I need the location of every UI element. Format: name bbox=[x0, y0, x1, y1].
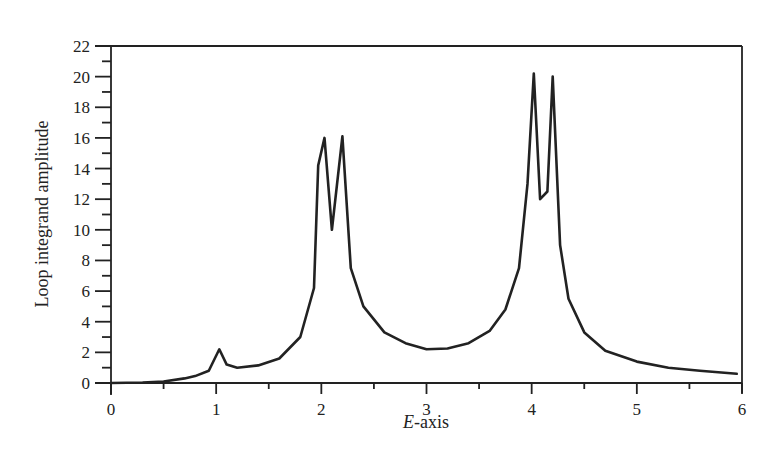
y-axis-tick-labels: 0246810121416182022 bbox=[73, 37, 91, 393]
x-tick-label: 5 bbox=[633, 400, 642, 419]
y-tick-label: 20 bbox=[73, 68, 90, 87]
axes-frame bbox=[95, 46, 742, 395]
y-tick-label: 14 bbox=[73, 160, 91, 179]
y-tick-label: 6 bbox=[82, 282, 91, 301]
y-tick-label: 12 bbox=[73, 190, 90, 209]
y-axis-title: Loop integrand amplitude bbox=[32, 121, 52, 308]
y-tick-label: 10 bbox=[73, 221, 90, 240]
x-axis-title-rest: -axis bbox=[414, 412, 449, 432]
x-axis-ticks bbox=[111, 383, 742, 394]
x-tick-label: 4 bbox=[527, 400, 536, 419]
y-tick-label: 22 bbox=[73, 37, 90, 56]
series-line bbox=[111, 74, 737, 383]
x-tick-label: 0 bbox=[107, 400, 116, 419]
y-tick-label: 0 bbox=[82, 374, 91, 393]
y-tick-label: 8 bbox=[82, 251, 91, 270]
x-tick-label: 6 bbox=[738, 400, 747, 419]
y-tick-label: 2 bbox=[82, 343, 91, 362]
line-chart: 0123456 0246810121416182022 E-axis Loop … bbox=[0, 0, 776, 460]
x-tick-label: 1 bbox=[212, 400, 221, 419]
y-tick-label: 18 bbox=[73, 98, 90, 117]
x-axis-title: E-axis bbox=[402, 412, 449, 432]
y-axis-ticks bbox=[95, 46, 111, 383]
x-axis-title-italic: E bbox=[402, 412, 414, 432]
x-tick-label: 2 bbox=[317, 400, 326, 419]
y-tick-label: 4 bbox=[82, 313, 91, 332]
y-tick-label: 16 bbox=[73, 129, 90, 148]
